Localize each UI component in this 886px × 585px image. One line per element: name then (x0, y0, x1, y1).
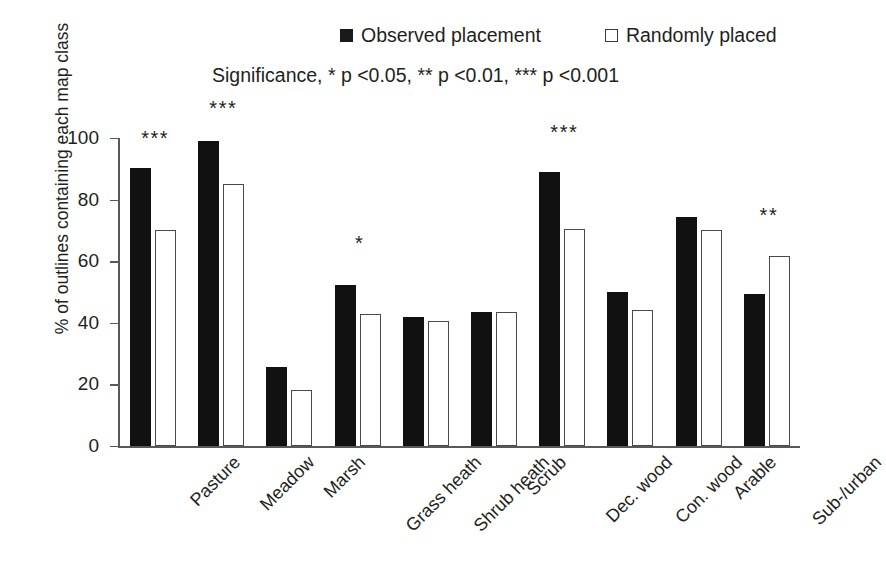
y-tick-100: 100 (110, 138, 118, 139)
x-axis-category-labels: PastureMeadowMarshGrass heathShrub heath… (118, 452, 818, 582)
y-tick-label-20: 20 (78, 373, 99, 395)
bar-random (155, 230, 176, 446)
bar-random (701, 230, 722, 446)
y-tick-0: 0 (110, 446, 118, 447)
bar-observed (676, 217, 697, 446)
bar-random (428, 321, 449, 446)
bar-random (223, 184, 244, 446)
y-tick-label-0: 0 (88, 435, 99, 457)
bar-observed (744, 294, 765, 446)
legend-item-observed: Observed placement (340, 24, 541, 47)
y-tick-80: 80 (110, 200, 118, 201)
bar-group (260, 138, 322, 446)
y-axis-line (118, 138, 120, 447)
significance-marker: *** (192, 97, 254, 120)
bar-group (601, 138, 663, 446)
x-axis-line (118, 446, 800, 448)
bar-group: ** (738, 138, 800, 446)
y-tick-label-60: 60 (78, 250, 99, 272)
bar-observed (335, 285, 356, 446)
bar-group: *** (533, 138, 595, 446)
significance-marker: *** (124, 127, 186, 150)
bar-group: *** (192, 138, 254, 446)
plot-area: 020406080100 ************ (118, 138, 800, 446)
legend-item-random: Randomly placed (605, 24, 777, 47)
x-category-label: Meadow (256, 452, 319, 515)
y-tick-60: 60 (110, 261, 118, 262)
x-category-label: Dec. wood (602, 452, 677, 527)
significance-marker: *** (533, 121, 595, 144)
y-tick-label-40: 40 (78, 312, 99, 334)
x-category-label: Sub-/urban (808, 452, 886, 530)
legend-label-observed: Observed placement (361, 24, 541, 47)
significance-marker: ** (738, 204, 800, 227)
bar-observed (471, 312, 492, 446)
x-category-label: Pasture (186, 452, 245, 511)
y-axis-title: % of outlines containing each map class (52, 9, 73, 349)
chart-legend: Observed placement Randomly placed (340, 22, 800, 48)
bar-random (360, 314, 381, 446)
bar-group (465, 138, 527, 446)
bar-random (496, 312, 517, 446)
bar-observed (198, 141, 219, 446)
legend-label-random: Randomly placed (626, 24, 777, 47)
bar-random (564, 229, 585, 446)
legend-swatch-observed (340, 29, 353, 42)
bar-observed (130, 168, 151, 446)
x-category-label: Marsh (319, 452, 369, 502)
y-tick-40: 40 (110, 323, 118, 324)
bar-random (769, 256, 790, 446)
legend-swatch-random (605, 29, 618, 42)
y-tick-label-100: 100 (67, 127, 99, 149)
bar-observed (266, 367, 287, 446)
bar-observed (607, 292, 628, 446)
y-tick-label-80: 80 (78, 189, 99, 211)
significance-caption: Significance, * p <0.05, ** p <0.01, ***… (0, 64, 831, 87)
bar-group: *** (124, 138, 186, 446)
bar-group (670, 138, 732, 446)
bar-observed (539, 172, 560, 446)
y-tick-20: 20 (110, 384, 118, 385)
significance-marker: * (329, 232, 391, 255)
bar-observed (403, 317, 424, 446)
bar-random (632, 310, 653, 446)
bar-group (397, 138, 459, 446)
bar-random (291, 390, 312, 446)
bar-group: * (329, 138, 391, 446)
